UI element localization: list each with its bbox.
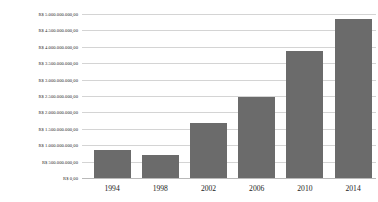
- y-axis-tick-label: R$ 3.500.000.000,00: [0, 61, 78, 66]
- x-axis-tick-label: 1998: [136, 184, 184, 194]
- bar: [142, 155, 179, 178]
- x-axis-tick-label: 2010: [281, 184, 329, 194]
- bar-chart: R$ 0,00R$ 500.000.000,00R$ 1.000.000.000…: [0, 0, 378, 202]
- x-axis: 199419982002200620102014: [82, 178, 378, 202]
- y-axis-tick-label: R$ 4.500.000.000,00: [0, 28, 78, 33]
- bar: [190, 123, 227, 178]
- bar: [94, 150, 131, 178]
- y-axis-tick-label: R$ 1.500.000.000,00: [0, 126, 78, 131]
- y-axis-tick-label: R$ 5.000.000.000,00: [0, 12, 78, 17]
- y-axis-tick-label: R$ 2.000.000.000,00: [0, 110, 78, 115]
- bar: [335, 19, 372, 178]
- x-axis-tick-label: 1994: [88, 184, 136, 194]
- x-axis-tick-label: 2006: [233, 184, 281, 194]
- x-axis-tick-label: 2014: [329, 184, 377, 194]
- y-axis-tick-label: R$ 2.500.000.000,00: [0, 94, 78, 99]
- plot-area: 199419982002200620102014: [82, 0, 378, 202]
- x-axis-tick-label: 2002: [184, 184, 232, 194]
- y-axis-tick-label: R$ 3.000.000.000,00: [0, 77, 78, 82]
- bar: [286, 51, 323, 178]
- y-axis: R$ 0,00R$ 500.000.000,00R$ 1.000.000.000…: [0, 0, 82, 202]
- y-axis-tick-label: R$ 4.000.000.000,00: [0, 44, 78, 49]
- y-axis-tick-label: R$ 500.000.000,00: [0, 159, 78, 164]
- y-axis-tick-label: R$ 0,00: [0, 176, 78, 181]
- bars-layer: [82, 0, 378, 202]
- y-axis-tick-label: R$ 1.000.000.000,00: [0, 143, 78, 148]
- bar: [238, 97, 275, 178]
